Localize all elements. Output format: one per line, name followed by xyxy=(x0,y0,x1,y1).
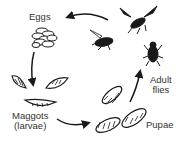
resting-fly-icon xyxy=(90,30,114,50)
maggots-icon xyxy=(12,76,68,107)
flying-fly-icon xyxy=(120,6,157,34)
arrow-pupae-to-adult xyxy=(130,72,140,102)
maggots-label-line2: (larvae) xyxy=(12,121,48,131)
eggs-icon xyxy=(32,28,57,48)
arrow-eggs-to-maggots xyxy=(32,52,34,84)
eggs-label: Eggs xyxy=(29,12,51,22)
arrow-maggots-to-pupae xyxy=(57,119,88,125)
pupae-icon xyxy=(94,83,149,135)
pupae-label: Pupae xyxy=(146,120,173,130)
arrow-adult-to-eggs xyxy=(68,14,108,20)
maggots-label: Maggots (larvae) xyxy=(12,111,48,131)
adult-flies-label: Adult flies xyxy=(150,75,172,95)
adult-label-line2: flies xyxy=(150,85,172,95)
standing-fly-icon xyxy=(143,42,163,66)
